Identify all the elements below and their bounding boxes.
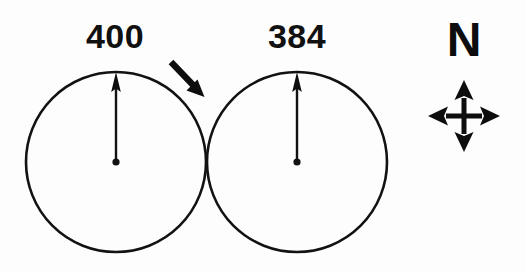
figure-canvas: 400 384 N bbox=[0, 0, 526, 272]
compass-arrow-right-icon bbox=[480, 107, 500, 126]
compass-arrow-up-icon bbox=[455, 80, 474, 100]
circle-label-right: 384 bbox=[268, 17, 326, 55]
tangent-pointer-shaft bbox=[171, 62, 194, 86]
center-dot-right bbox=[293, 158, 300, 165]
compass-rose: N bbox=[428, 13, 500, 152]
circle-group-right: 384 bbox=[207, 17, 387, 252]
compass-arrow-down-icon bbox=[455, 132, 474, 152]
diagram-svg: 400 384 N bbox=[0, 0, 526, 272]
compass-north-letter: N bbox=[447, 13, 482, 66]
center-dot-left bbox=[112, 158, 119, 165]
compass-arrow-left-icon bbox=[428, 107, 448, 126]
circle-group-left: 400 bbox=[26, 17, 206, 252]
circle-label-left: 400 bbox=[86, 17, 144, 55]
tangent-pointer-arrow bbox=[171, 62, 205, 97]
